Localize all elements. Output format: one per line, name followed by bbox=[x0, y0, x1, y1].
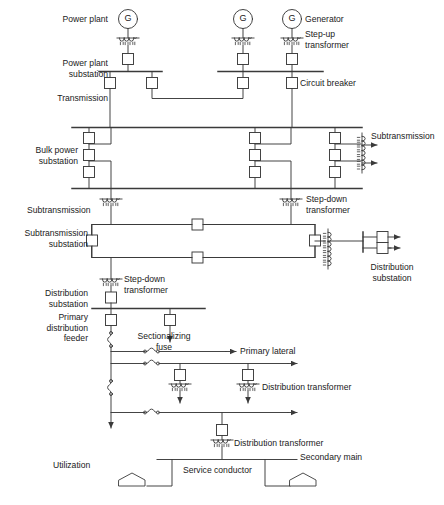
component-label-circuit-breaker: Circuit breaker bbox=[300, 78, 356, 89]
circuit-breaker bbox=[250, 133, 261, 144]
level-label-subtransmission-substation: Subtransmission substation bbox=[0, 228, 88, 249]
power-system-one-line-diagram: Power plant Power plant substation Trans… bbox=[0, 0, 444, 505]
distribution-transformer-1 bbox=[169, 384, 191, 391]
sectionalizing-fuse-2 bbox=[108, 380, 113, 396]
service-conductor-1 bbox=[147, 460, 172, 487]
level-label-bulk-power-substation: Bulk power substation bbox=[4, 145, 78, 166]
house-2 bbox=[290, 473, 316, 486]
distribution-transformer-3 bbox=[211, 440, 233, 447]
step-down-transformer-left bbox=[100, 199, 122, 206]
circuit-breaker bbox=[238, 78, 249, 89]
component-label-subtransmission-out: Subtransmission bbox=[371, 131, 435, 142]
circuit-breaker bbox=[192, 219, 203, 230]
lateral-fuse-3 bbox=[144, 409, 160, 414]
circuit-breaker bbox=[330, 133, 341, 144]
circuit-breaker bbox=[287, 54, 298, 65]
circuit-breaker bbox=[165, 315, 176, 326]
circuit-breaker bbox=[238, 54, 249, 65]
subtransmission-ring bbox=[92, 225, 315, 258]
distribution-transformer-2 bbox=[237, 384, 259, 391]
step-up-transformer-3 bbox=[281, 38, 303, 45]
house-1 bbox=[119, 473, 145, 486]
component-label-step-down-transformer-dist: Step-down transformer bbox=[124, 274, 168, 295]
lateral-fuse-2 bbox=[144, 360, 160, 365]
circuit-breaker bbox=[84, 167, 95, 178]
transmission-tie-line bbox=[152, 89, 243, 99]
circuit-breaker bbox=[330, 150, 341, 161]
component-label-service-conductor: Service conductor bbox=[183, 465, 252, 476]
level-label-subtransmission: Subtransmission bbox=[27, 205, 91, 216]
step-up-transformer-2 bbox=[232, 38, 254, 45]
generator-symbol-label: G bbox=[235, 13, 251, 24]
generator-symbol-label: G bbox=[120, 13, 136, 24]
service-conductor-2 bbox=[265, 460, 290, 487]
circuit-breaker bbox=[243, 370, 254, 381]
level-label-transmission: Transmission bbox=[4, 93, 108, 104]
step-down-transformer-right bbox=[280, 199, 302, 206]
level-label-power-plant: Power plant bbox=[4, 14, 108, 25]
level-label-utilization: Utilization bbox=[53, 460, 90, 471]
sectionalizing-fuse-1 bbox=[108, 332, 113, 348]
circuit-breaker bbox=[192, 252, 203, 263]
component-label-generator: Generator bbox=[305, 14, 344, 25]
distribution-transformer-bank-right bbox=[323, 229, 331, 269]
level-label-distribution-substation: Distribution substation bbox=[6, 288, 88, 309]
component-label-primary-lateral: Primary lateral bbox=[240, 346, 295, 357]
circuit-breaker bbox=[123, 54, 134, 65]
component-label-step-down-transformer-bulk: Step-down transformer bbox=[306, 194, 350, 215]
subtransmission-transformer-bank bbox=[357, 133, 365, 173]
circuit-breaker bbox=[147, 78, 158, 89]
circuit-breaker bbox=[287, 78, 298, 89]
component-label-secondary-main: Secondary main bbox=[300, 452, 362, 463]
circuit-breaker bbox=[84, 150, 95, 161]
circuit-breaker bbox=[105, 78, 116, 89]
circuit-breaker bbox=[377, 243, 388, 254]
circuit-breaker bbox=[250, 150, 261, 161]
circuit-breaker bbox=[175, 370, 186, 381]
component-label-distribution-transformer-2: Distribution transformer bbox=[234, 438, 323, 449]
component-label-distribution-substation-right: Distribution substation bbox=[350, 262, 434, 283]
circuit-breaker bbox=[84, 133, 95, 144]
level-label-primary-distribution-feeder: Primary distribution feeder bbox=[6, 312, 88, 344]
generator-symbol-label: G bbox=[284, 13, 300, 24]
component-label-step-up-transformer: Step-up transformer bbox=[305, 29, 349, 50]
circuit-breaker bbox=[217, 425, 228, 436]
component-label-distribution-transformer-1: Distribution transformer bbox=[262, 382, 351, 393]
circuit-breaker bbox=[250, 167, 261, 178]
component-label-sectionalizing-fuse: Sectionalizing fuse bbox=[118, 331, 210, 352]
circuit-breaker bbox=[87, 235, 98, 246]
circuit-breaker bbox=[106, 315, 117, 326]
circuit-breaker bbox=[106, 292, 117, 303]
circuit-breaker bbox=[310, 235, 321, 246]
circuit-breaker bbox=[330, 167, 341, 178]
step-up-transformer-1 bbox=[117, 38, 139, 45]
circuit-breaker bbox=[377, 232, 388, 243]
step-down-transformer-distribution bbox=[100, 279, 122, 286]
level-label-power-plant-substation: Power plant substation bbox=[4, 58, 108, 79]
